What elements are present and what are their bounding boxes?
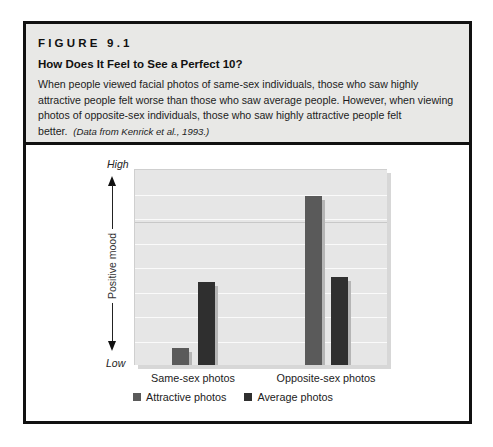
figure-frame: FIGURE 9.1 How Does It Feel to See a Per… [23,21,472,424]
figure-label: FIGURE 9.1 [38,37,133,49]
figure-header: FIGURE 9.1 How Does It Feel to See a Per… [26,24,469,145]
caption-citation: (Data from Kenrick et al., 1993.) [73,126,209,137]
figure-title: How Does It Feel to See a Perfect 10? [38,58,243,70]
figure-caption: When people viewed facial photos of same… [38,77,458,139]
